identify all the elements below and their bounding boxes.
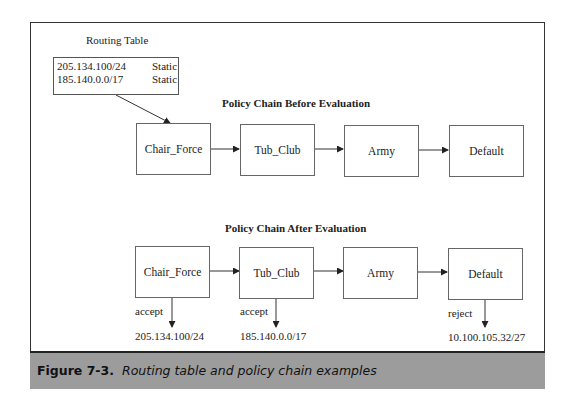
node-chair-force-after: Chair_Force — [135, 246, 210, 298]
route-type: Static — [152, 60, 177, 72]
outcome-action: reject — [448, 307, 472, 319]
outcome-prefix: 10.100.105.32/27 — [448, 331, 525, 343]
node-army-after: Army — [343, 247, 418, 299]
outcome-prefix: 205.134.100/24 — [135, 330, 204, 342]
node-default-after: Default — [448, 248, 523, 300]
routing-table-row: 185.140.0.0/17 Static — [57, 73, 123, 85]
node-tub-club-before: Tub_Club — [240, 124, 315, 176]
outcome-action: accept — [240, 305, 268, 317]
outcome-prefix: 185.140.0.0/17 — [240, 330, 306, 342]
route-prefix: 185.140.0.0/17 — [57, 73, 123, 85]
routing-table-title: Routing Table — [86, 34, 148, 46]
figure-number: Figure 7-3. — [37, 363, 114, 378]
routing-table-row: 205.134.100/24 Static — [57, 60, 126, 72]
node-army-before: Army — [344, 125, 419, 177]
route-prefix: 205.134.100/24 — [57, 60, 126, 72]
node-tub-club-after: Tub_Club — [239, 247, 314, 299]
figure-caption: Figure 7-3. Routing table and policy cha… — [30, 351, 545, 389]
figure-caption-text: Routing table and policy chain examples — [122, 363, 377, 378]
node-default-before: Default — [449, 125, 524, 177]
routing-table: 205.134.100/24 Static 185.140.0.0/17 Sta… — [53, 57, 179, 95]
outcome-action: accept — [135, 305, 163, 317]
chain-before-title: Policy Chain Before Evaluation — [222, 97, 370, 109]
route-type: Static — [152, 73, 177, 85]
chain-after-title: Policy Chain After Evaluation — [225, 222, 366, 234]
node-chair-force-before: Chair_Force — [136, 123, 211, 175]
